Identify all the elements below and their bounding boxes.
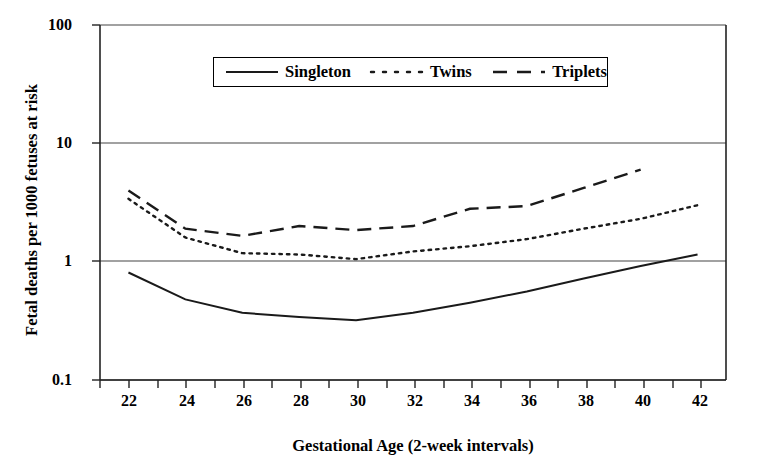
legend-label-singleton: Singleton [285,62,351,82]
series-line-triplets [128,170,640,236]
legend-key-dotted-icon [369,65,425,79]
y-axis-ticks [92,25,100,380]
x-axis-ticks [100,380,701,388]
legend-key-dashed-icon [491,65,547,79]
legend-item-triplets: Triplets [491,62,607,82]
series-line-singleton [128,254,697,320]
legend-item-twins: Twins [369,62,472,82]
series-line-twins [128,199,697,259]
chart-legend: Singleton Twins Triplets [213,57,608,87]
legend-key-solid-icon [224,65,280,79]
legend-label-twins: Twins [430,62,472,82]
legend-label-triplets: Triplets [552,62,607,82]
chart-figure: Fetal deaths per 1000 fetuses at risk 10… [0,0,761,473]
legend-item-singleton: Singleton [224,62,351,82]
